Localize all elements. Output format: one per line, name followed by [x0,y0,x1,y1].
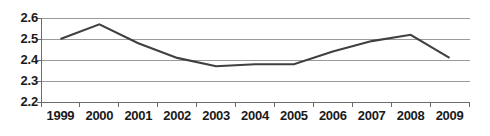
gridlines-group [41,18,470,102]
y-axis-tick-labels: 2.6 2.5 2.4 2.3 2.2 [0,0,38,136]
y-tick-label: 2.3 [4,74,38,87]
x-tick-label-2002: 2002 [158,108,197,130]
line-chart: 2.6 2.5 2.4 2.3 2.2 1999 2000 2001 2002 … [0,0,490,136]
x-tick-label-2009: 2009 [430,108,469,130]
x-tick-label-2001: 2001 [119,108,158,130]
x-axis-tick-labels: 1999 2000 2001 2002 2003 2004 2005 2006 … [41,108,469,130]
x-tick-label-1999: 1999 [41,108,80,130]
x-tick-marks-group [41,102,469,107]
y-tick-label: 2.4 [4,53,38,66]
x-tick-label-2004: 2004 [236,108,275,130]
y-tick-label: 2.5 [4,32,38,45]
x-tick-label-2006: 2006 [313,108,352,130]
x-tick-label-2005: 2005 [274,108,313,130]
x-tick-label-2003: 2003 [197,108,236,130]
y-tick-label: 2.2 [4,95,38,108]
x-tick-label-2000: 2000 [80,108,119,130]
x-tick-label-2008: 2008 [391,108,430,130]
y-tick-label: 2.6 [4,11,38,24]
x-tick-label-2007: 2007 [352,108,391,130]
